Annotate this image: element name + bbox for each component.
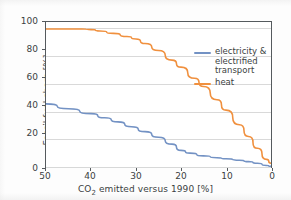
x-tick-label: 30 <box>130 172 141 181</box>
legend-swatch-heat <box>194 79 211 88</box>
y-tick-label: 0 <box>32 164 38 173</box>
x-tick-label: 40 <box>84 172 95 181</box>
legend-label-heat: heat <box>215 78 234 88</box>
y-tick-label: 60 <box>27 73 38 82</box>
x-axis-title-post: emitted versus 1990 [%] <box>96 184 213 194</box>
x-axis-title: CO2 emitted versus 1990 [%] <box>0 184 291 197</box>
y-tick-label: 40 <box>27 101 38 110</box>
y-tick-label: 100 <box>21 17 38 26</box>
x-tick-label: 0 <box>269 172 275 181</box>
chart-legend: electricity & electrified transport heat <box>194 47 272 167</box>
y-tick-label: 20 <box>27 129 38 138</box>
x-axis-title-pre: CO <box>78 184 92 194</box>
legend-item-electricity[interactable]: electricity & electrified transport <box>194 47 272 76</box>
legend-label-electricity: electricity & electrified transport <box>215 47 266 76</box>
plot-area: electricity & electrified transport heat <box>45 21 272 168</box>
legend-swatch-electricity <box>194 48 211 57</box>
x-tick-label: 10 <box>221 172 232 181</box>
chart-figure: 100 80 60 40 20 0 50 40 30 20 10 0 CO2 e… <box>0 0 291 200</box>
x-tick-label: 50 <box>39 172 50 181</box>
x-tick-label: 20 <box>175 172 186 181</box>
y-tick-label: 80 <box>27 45 38 54</box>
legend-item-heat[interactable]: heat <box>194 78 272 88</box>
